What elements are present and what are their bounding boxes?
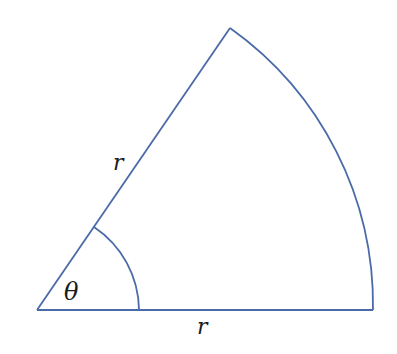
upper-radius-line — [37, 28, 230, 310]
sector-diagram: r r θ — [0, 0, 397, 354]
lower-radius-label: r — [197, 314, 209, 339]
angle-label: θ — [64, 278, 79, 306]
upper-radius-label: r — [113, 150, 125, 175]
angle-arc — [94, 227, 139, 310]
sector-arc — [230, 28, 373, 310]
